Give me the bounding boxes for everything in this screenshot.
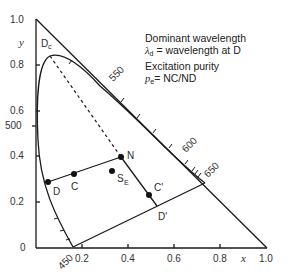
wavelength-450-label: 450 xyxy=(56,252,76,272)
svg-text:0.6: 0.6 xyxy=(167,253,181,264)
wavelength-650-label: 650 xyxy=(202,160,222,180)
point-SE xyxy=(109,168,115,174)
point-C xyxy=(71,171,77,177)
svg-text:0: 0 xyxy=(20,242,26,253)
label-C-prime: C' xyxy=(154,182,163,193)
svg-text:0.4: 0.4 xyxy=(121,253,135,264)
legend-line-dominant-wavelength: Dominant wavelength xyxy=(145,32,246,44)
x-axis-label: x xyxy=(240,252,246,264)
legend: Dominant wavelength λd = wavelength at D… xyxy=(145,32,246,88)
svg-text:0.8: 0.8 xyxy=(10,59,24,70)
svg-text:0.2: 0.2 xyxy=(10,196,24,207)
label-C: C xyxy=(71,181,78,192)
legend-line-excitation-purity: Excitation purity xyxy=(145,60,246,72)
label-SE-subscript: E xyxy=(124,179,129,186)
svg-text:0.6: 0.6 xyxy=(10,105,24,116)
y-tick-labels: 1.0 0.8 0.6 0.4 0.2 0 500 y xyxy=(5,14,26,253)
y-axis-label: y xyxy=(18,36,24,48)
wavelength-600-label: 600 xyxy=(180,135,200,155)
svg-text:1.0: 1.0 xyxy=(10,14,24,25)
label-D: D xyxy=(53,186,60,197)
purple-line xyxy=(73,183,205,247)
svg-text:0.4: 0.4 xyxy=(10,150,24,161)
svg-text:0.8: 0.8 xyxy=(213,253,227,264)
legend-line-lambda: λd = wavelength at D xyxy=(145,44,246,60)
label-SE: S xyxy=(117,173,124,184)
label-D-prime: D' xyxy=(158,211,167,222)
svg-text:0.2: 0.2 xyxy=(75,253,89,264)
point-N xyxy=(118,154,124,160)
svg-text:1.0: 1.0 xyxy=(259,253,273,264)
x-tick-labels: 0.2 0.4 0.6 0.8 1.0 x 450 xyxy=(56,252,274,272)
label-N: N xyxy=(127,150,134,161)
point-D xyxy=(45,179,51,185)
wavelength-500-label: 500 xyxy=(5,120,22,131)
legend-line-purity-formula: pe= NC/ND xyxy=(145,72,246,88)
wavelength-550-label: 550 xyxy=(107,64,127,84)
label-Dc-subscript: c xyxy=(48,43,52,50)
point-C-prime xyxy=(146,192,152,198)
